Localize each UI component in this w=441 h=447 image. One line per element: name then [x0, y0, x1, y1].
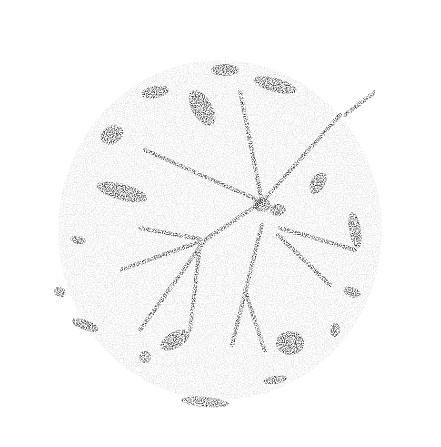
ink-patch	[211, 64, 239, 76]
ink-patch	[270, 204, 286, 216]
ink-patch	[253, 198, 271, 212]
ink-patch	[330, 323, 340, 337]
leaf-print-image	[0, 0, 441, 447]
leaf-print-graphic	[0, 0, 441, 447]
ink-patch	[276, 331, 304, 355]
ink-patch	[139, 351, 151, 363]
